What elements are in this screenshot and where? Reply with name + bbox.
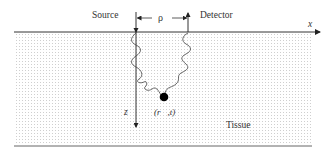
detector-label: Detector [200,11,233,21]
separation-label: ρ [158,13,163,23]
point-label: (r⃗,t) [154,108,175,117]
x-axis-label: x [308,20,312,30]
z-axis-label: z [124,108,128,118]
detection-point [160,93,169,102]
diagram-canvas [0,0,332,152]
source-label: Source [92,11,118,21]
tissue-region [14,33,312,145]
tissue-label: Tissue [226,121,250,131]
photon-migration-diagram: Source Detector ρ x z (r⃗,t) Tissue [0,0,332,152]
